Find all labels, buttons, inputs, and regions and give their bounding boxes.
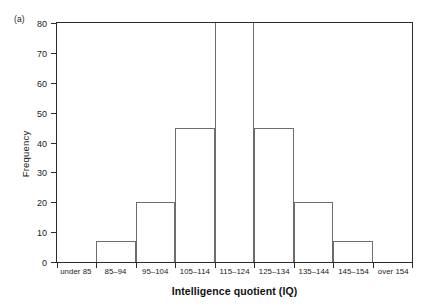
histogram-bar [254,128,293,262]
bar-cell [333,23,372,262]
y-axis-tick: 10 [51,232,57,233]
bar-cell [175,23,214,262]
y-axis-title: Frequency [14,0,36,308]
bar-cell [215,23,254,262]
bar-cell [136,23,175,262]
y-axis-tick-label: 70 [37,49,47,58]
x-axis-category-label: 85–94 [96,266,136,280]
bar-series [57,23,412,262]
y-axis-tick: 30 [51,172,57,173]
y-axis-tick: 60 [51,83,57,84]
x-axis-category-label: 105–114 [175,266,215,280]
x-axis-category-label: 135–144 [294,266,334,280]
y-axis-tick: 70 [51,53,57,54]
x-axis-title: Intelligence quotient (IQ) [56,285,413,297]
panel-label: (a) [14,14,25,24]
x-axis-tick-labels: under 8585–9495–104105–114115–124125–134… [56,266,413,280]
y-axis-tick: 80 [51,23,57,24]
y-axis-tick-label: 30 [37,169,47,178]
y-axis-tick-label: 50 [37,109,47,118]
x-axis-category-label: 115–124 [215,266,255,280]
x-axis-category-label: 125–134 [254,266,294,280]
histogram-bar [215,23,254,262]
plot-area: 01020304050607080 [56,22,413,263]
y-axis-tick-label: 0 [42,259,47,268]
x-axis-category-label: 95–104 [135,266,175,280]
x-axis-category-label: over 154 [373,266,413,280]
x-axis-category-label: 145–154 [334,266,374,280]
histogram-bar [333,241,372,262]
histogram-bar [136,202,175,262]
y-axis-tick-label: 80 [37,20,47,29]
bar-cell [373,23,412,262]
x-axis-category-label: under 85 [56,266,96,280]
histogram-figure: (a) Frequency 01020304050607080 under 85… [0,0,436,308]
y-axis-tick: 20 [51,202,57,203]
bar-cell [254,23,293,262]
y-axis-tick-label: 60 [37,79,47,88]
y-axis-tick: 50 [51,113,57,114]
histogram-bar [294,202,333,262]
y-axis-tick-label: 20 [37,199,47,208]
y-axis-tick: 40 [51,143,57,144]
y-axis-tick-label: 40 [37,139,47,148]
bar-cell [96,23,135,262]
histogram-bar [175,128,214,262]
histogram-bar [96,241,135,262]
y-axis-tick-label: 10 [37,229,47,238]
bar-cell [57,23,96,262]
bar-cell [294,23,333,262]
